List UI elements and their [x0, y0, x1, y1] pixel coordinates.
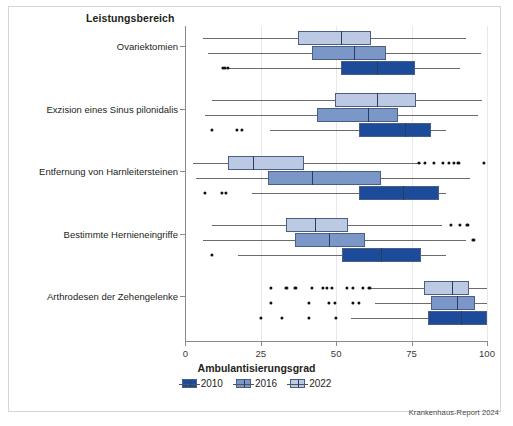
x-axis-tick-label: 0 — [183, 348, 188, 359]
box-2022 — [335, 93, 416, 107]
y-axis-tick — [180, 46, 186, 47]
median-line-2022 — [377, 93, 378, 107]
legend: 201020162022 — [0, 378, 513, 389]
median-line-2022 — [341, 31, 342, 45]
box-2010 — [359, 186, 439, 200]
category-label-4: Bestimmte Hernieneingriffe — [64, 228, 178, 239]
category-label-1: Ovariektomien — [117, 41, 178, 52]
median-line-2010 — [381, 248, 382, 262]
box-2016 — [317, 108, 398, 122]
box-2016 — [312, 46, 386, 60]
median-line-2016 — [354, 46, 355, 60]
median-line-2022 — [452, 281, 453, 295]
x-axis-tick-label: 75 — [406, 348, 417, 359]
median-line-2022 — [315, 218, 316, 232]
box-2016 — [268, 171, 381, 185]
box-2022 — [286, 218, 348, 232]
box-2022 — [298, 31, 370, 45]
category-label-5: Arthrodesen der Zehengelenke — [47, 291, 178, 302]
box-2010 — [359, 123, 431, 137]
box-2016 — [431, 296, 475, 310]
median-line-2016 — [329, 233, 330, 247]
median-line-2022 — [253, 156, 254, 170]
x-axis-tick — [185, 341, 186, 346]
median-line-2010 — [461, 311, 462, 325]
box-2010 — [428, 311, 487, 325]
median-line-2016 — [457, 296, 458, 310]
x-axis-tick-label: 100 — [479, 348, 495, 359]
y-axis-tick — [180, 171, 186, 172]
box-2016 — [295, 233, 364, 247]
legend-item-2010[interactable]: 2010 — [182, 378, 223, 389]
box-2022 — [228, 156, 305, 170]
y-axis-tick — [180, 234, 186, 235]
boxplot-figure: Leistungsbereich Ambulantisierungsgrad 2… — [0, 0, 513, 426]
legend-item-2016[interactable]: 2016 — [236, 378, 277, 389]
gridline — [487, 26, 488, 341]
legend-swatch-icon — [290, 379, 305, 388]
median-line-2016 — [368, 108, 369, 122]
median-line-2010 — [377, 61, 378, 75]
legend-label: 2022 — [309, 378, 331, 389]
legend-swatch-icon — [182, 379, 197, 388]
box-2022 — [424, 281, 469, 295]
y-axis-tick — [180, 109, 186, 110]
category-label-3: Entfernung von Harnleitersteinen — [39, 166, 178, 177]
y-axis-tick — [180, 296, 186, 297]
legend-swatch-icon — [236, 379, 251, 388]
legend-label: 2010 — [201, 378, 223, 389]
median-line-2010 — [403, 186, 404, 200]
plot-title: Leistungsbereich — [86, 12, 175, 24]
median-line-2010 — [405, 123, 406, 137]
x-axis-title: Ambulantisierungsgrad — [0, 362, 513, 374]
legend-item-2022[interactable]: 2022 — [290, 378, 331, 389]
category-label-2: Exzision eines Sinus pilonidalis — [47, 103, 179, 114]
x-axis-tick — [487, 341, 488, 346]
median-line-2016 — [312, 171, 313, 185]
x-axis-tick — [336, 341, 337, 346]
legend-label: 2016 — [255, 378, 277, 389]
x-axis-tick-label: 50 — [331, 348, 342, 359]
source-note: Krankenhaus-Report 2024 — [409, 408, 499, 417]
x-axis-tick — [412, 341, 413, 346]
gridline — [261, 26, 262, 341]
x-axis-tick-label: 25 — [255, 348, 266, 359]
x-axis-tick — [261, 341, 262, 346]
